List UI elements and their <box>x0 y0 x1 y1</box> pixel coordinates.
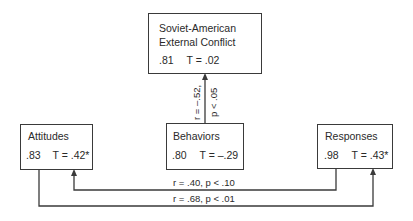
reliability-value: .81 <box>159 54 174 66</box>
node-title: Attitudes <box>28 130 69 143</box>
edge-label-r: r = –.52, <box>191 85 202 120</box>
t-value: T = –.29 <box>200 149 239 161</box>
node-title-line2: External Conflict <box>159 36 235 49</box>
edge-label-inner: r = .40, p < .10 <box>173 177 235 188</box>
reliability-value: .98 <box>324 149 339 161</box>
node-attitudes: Attitudes .83 T = .42* <box>20 124 93 170</box>
node-title: Behaviors <box>173 130 220 143</box>
t-value: T = .02 <box>187 54 220 66</box>
arrow-up-icon <box>370 168 376 175</box>
t-value: T = .43* <box>352 149 389 161</box>
edge-label-outer: r = .68, p < .01 <box>173 193 235 204</box>
node-title: Responses <box>325 130 378 143</box>
node-responses: Responses .98 T = .43* <box>317 124 393 169</box>
node-soviet-american-conflict: Soviet-American External Conflict .81 T … <box>148 13 262 74</box>
arrow-up-icon <box>71 169 77 176</box>
node-title-line1: Soviet-American <box>159 22 236 35</box>
reliability-value: .80 <box>172 149 187 161</box>
edge-label-p: p < .05 <box>208 88 219 117</box>
t-value: T = .42* <box>53 149 90 161</box>
arrow-up-icon <box>202 73 208 80</box>
reliability-value: .83 <box>26 149 41 161</box>
node-behaviors: Behaviors .80 T = –.29 <box>166 123 244 170</box>
